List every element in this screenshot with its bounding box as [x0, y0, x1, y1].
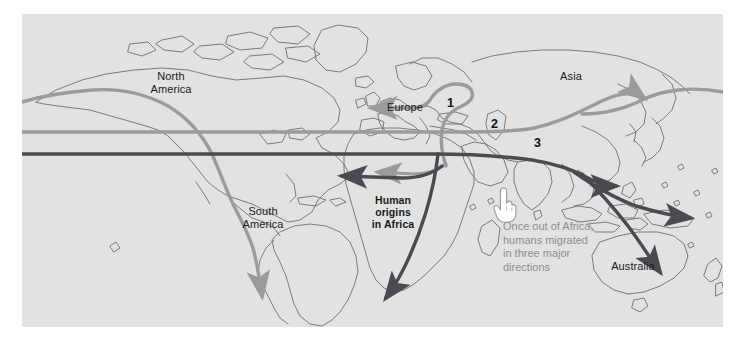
label-south-america: South America: [232, 205, 294, 230]
label-human-origins: Human origins in Africa: [362, 194, 424, 230]
migration-annotation: Once out of Africa, humans migrated in t…: [503, 220, 594, 274]
world-map-canvas: North America South America Europe Asia …: [22, 14, 723, 327]
route-number-2: 2: [491, 117, 498, 131]
world-map-graphic: [22, 14, 723, 327]
label-asia: Asia: [546, 70, 596, 83]
pointing-hand-icon: [490, 186, 518, 224]
label-australia: Australia: [600, 260, 666, 273]
route-number-1: 1: [447, 96, 454, 110]
label-north-america: North America: [140, 70, 202, 95]
label-europe: Europe: [373, 101, 437, 114]
route-number-3: 3: [534, 136, 541, 150]
migration-map-figure: North America South America Europe Asia …: [0, 0, 743, 344]
